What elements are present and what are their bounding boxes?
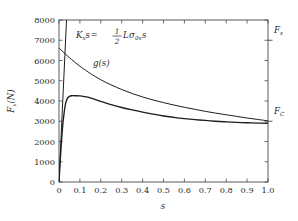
- y-tick-label: 8000: [34, 15, 55, 25]
- x-tick-label: 0.3: [115, 185, 128, 195]
- equation-equals: =: [91, 30, 98, 40]
- x-axis-tick-labels: 00.10.20.30.40.50.60.70.80.91.0: [56, 185, 274, 195]
- x-tick-label: 0: [56, 185, 61, 195]
- y-tick-label: 4000: [34, 96, 55, 106]
- equation-rhs-s: s: [142, 30, 147, 40]
- figure-chart: 00.10.20.30.40.50.60.70.80.91.0 01000200…: [0, 0, 298, 221]
- y-tick-label: 1000: [34, 157, 55, 167]
- right-label-fs-sub: s: [280, 30, 283, 36]
- equation-L: L: [122, 30, 129, 40]
- equation-numerator: 1: [115, 27, 120, 36]
- equation-denominator: 2: [114, 37, 120, 46]
- y-tick-label: 2000: [34, 137, 55, 147]
- y-tick-label: 0: [50, 177, 55, 187]
- x-tick-label: 0.9: [241, 185, 254, 195]
- right-label-fc: FC: [273, 106, 285, 117]
- y-tick-label: 5000: [34, 76, 55, 86]
- chart-svg: 00.10.20.30.40.50.60.70.80.91.0 01000200…: [0, 0, 298, 221]
- y-tick-label: 3000: [34, 116, 55, 126]
- y-axis-label: Fx(N): [6, 89, 17, 113]
- y-axis-tick-labels: 010002000300040005000600070008000: [34, 15, 55, 187]
- y-tick-label: 7000: [34, 35, 55, 45]
- x-tick-label: 1.0: [261, 185, 274, 195]
- y-axis-label-unit: (N): [6, 89, 16, 103]
- annotation-g-of-s: g(s): [93, 58, 110, 68]
- x-tick-label: 0.4: [136, 185, 149, 195]
- right-label-fs: Fs: [273, 25, 283, 36]
- x-tick-label: 0.2: [94, 185, 107, 195]
- plot-frame: [59, 20, 268, 182]
- x-tick-label: 0.7: [199, 185, 212, 195]
- x-tick-label: 0.1: [73, 185, 86, 195]
- x-tick-label: 0.5: [157, 185, 170, 195]
- x-axis-label: s: [161, 201, 166, 211]
- y-tick-label: 6000: [34, 56, 55, 66]
- svg-text:Fx(N): Fx(N): [6, 89, 17, 113]
- equation-lhs: Kxs=: [75, 30, 98, 41]
- x-tick-label: 0.8: [220, 185, 233, 195]
- right-label-fc-sub: C: [280, 111, 285, 117]
- equation-rhs: Lσ0xs: [122, 30, 147, 41]
- x-tick-label: 0.6: [178, 185, 191, 195]
